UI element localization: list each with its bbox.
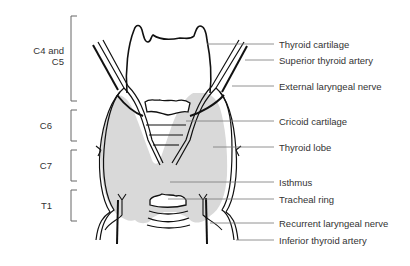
label-external-laryngeal-nerve: External laryngeal nerve	[279, 82, 381, 92]
level-label-c7: C7	[14, 161, 52, 172]
label-isthmus: Isthmus	[279, 178, 312, 188]
label-recurrent-laryngeal-nerve: Recurrent laryngeal nerve	[279, 219, 388, 229]
thyroid-cartilage-shape	[126, 26, 210, 94]
label-inferior-thyroid-artery: Inferior thyroid artery	[279, 236, 367, 246]
label-cricoid-cartilage: Cricoid cartilage	[279, 117, 347, 127]
vertebral-brackets	[71, 16, 77, 221]
level-label-c4-c5: C4 and C5	[14, 46, 64, 68]
level-c5-line: C5	[14, 57, 64, 68]
thyroid-anatomy-figure: C4 and C5 C6 C7 T1 Thyroid cartilage Sup…	[0, 0, 410, 266]
bracket-c6	[71, 110, 77, 141]
bracket-c7	[71, 150, 77, 181]
level-label-t1: T1	[14, 201, 52, 212]
label-tracheal-ring: Tracheal ring	[279, 195, 334, 205]
bracket-c4-c5	[71, 16, 77, 101]
bracket-t1	[71, 190, 77, 221]
label-thyroid-lobe: Thyroid lobe	[279, 143, 331, 153]
label-thyroid-cartilage: Thyroid cartilage	[279, 40, 349, 50]
label-superior-thyroid-artery: Superior thyroid artery	[279, 56, 373, 66]
level-label-c6: C6	[14, 121, 52, 132]
